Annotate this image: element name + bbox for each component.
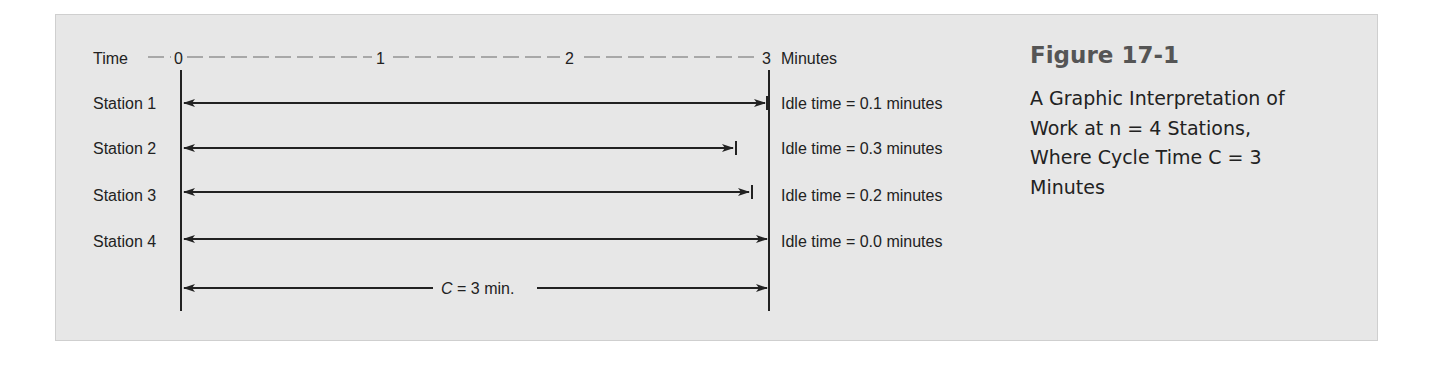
caption-line: A Graphic Interpretation of [1030, 84, 1330, 114]
station-row-3: Station 3 Idle time = 0.2 minutes [93, 185, 942, 204]
tick-label-0: 0 [174, 50, 183, 67]
station-row-1: Station 1 Idle time = 0.1 minutes [93, 95, 942, 112]
idle-time-label: Idle time = 0.3 minutes [781, 140, 942, 157]
axis-unit-label: Minutes [781, 50, 837, 67]
station-label: Station 4 [93, 233, 156, 250]
caption-line: Where Cycle Time C = 3 [1030, 143, 1330, 173]
figure-caption: A Graphic Interpretation of Work at n = … [1030, 84, 1330, 202]
tick-label-1: 1 [376, 50, 385, 67]
tick-label-3: 3 [762, 50, 771, 67]
idle-time-label: Idle time = 0.1 minutes [781, 95, 942, 112]
idle-time-label: Idle time = 0.2 minutes [781, 187, 942, 204]
idle-time-label: Idle time = 0.0 minutes [781, 233, 942, 250]
figure-title: Figure 17-1 [1030, 42, 1179, 68]
caption-line: Work at n = 4 Stations, [1030, 114, 1330, 144]
caption-line: Minutes [1030, 173, 1330, 203]
time-axis-label: Time [93, 50, 128, 67]
station-label: Station 2 [93, 140, 156, 157]
station-label: Station 3 [93, 187, 156, 204]
station-row-4: Station 4 Idle time = 0.0 minutes [93, 233, 942, 250]
tick-label-2: 2 [565, 50, 574, 67]
cycle-time-dimension: C = 3 min. [184, 280, 767, 297]
cycle-time-label: C = 3 min. [441, 280, 514, 297]
station-label: Station 1 [93, 95, 156, 112]
station-row-2: Station 2 Idle time = 0.3 minutes [93, 140, 942, 157]
